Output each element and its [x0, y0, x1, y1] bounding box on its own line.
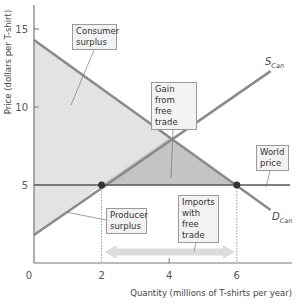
label-line: Gain from — [155, 84, 193, 106]
imports-arrow — [105, 245, 235, 259]
label-line: Producer — [110, 210, 143, 221]
imports-label: Imports with free trade — [178, 195, 219, 243]
label-line: Consumer — [76, 26, 113, 37]
gain-from-free-trade-label: Gain from free trade — [151, 82, 197, 130]
domestic-quantity-demanded-dot — [233, 182, 240, 189]
consumer-surplus-label: Consumer surplus — [72, 24, 117, 50]
supply-curve-label: SCan — [265, 56, 284, 70]
leader-line — [66, 212, 106, 220]
y-tick-label: 15 — [15, 24, 28, 35]
label-line: price — [260, 158, 285, 169]
label-line: Imports — [182, 197, 215, 208]
label-line: with free — [182, 208, 215, 230]
domestic-quantity-supplied-dot — [98, 182, 105, 189]
x-axis-title: Quantity (millions of T-shirts per year) — [130, 288, 292, 298]
surplus-chart: 510150246Quantity (millions of T-shirts … — [0, 0, 298, 303]
y-axis-title: Price (dollars per T-shirt) — [3, 10, 13, 115]
producer-surplus-label: Producer surplus — [106, 208, 147, 234]
label-line: free trade — [155, 106, 193, 128]
x-tick-label: 0 — [26, 270, 32, 281]
world-price-label: World price — [256, 145, 289, 171]
demand-symbol: D — [272, 211, 280, 222]
label-line: trade — [182, 230, 215, 241]
x-tick-label: 6 — [234, 270, 240, 281]
label-line: surplus — [76, 37, 113, 48]
x-tick-label: 2 — [98, 270, 104, 281]
y-tick-label: 5 — [22, 180, 28, 191]
demand-subscript: Can — [280, 217, 293, 225]
label-line: surplus — [110, 221, 143, 232]
x-tick-label: 4 — [166, 270, 172, 281]
supply-subscript: Can — [271, 62, 284, 70]
demand-curve-label: DCan — [272, 211, 292, 225]
label-line: World — [260, 147, 285, 158]
y-tick-label: 10 — [15, 102, 28, 113]
